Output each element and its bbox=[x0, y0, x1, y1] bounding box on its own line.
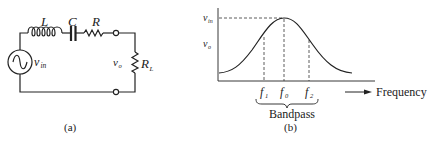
load-resistor-label: R L bbox=[140, 56, 154, 73]
svg-text:o: o bbox=[208, 44, 211, 50]
svg-text:R: R bbox=[140, 56, 149, 71]
svg-text:in: in bbox=[41, 61, 47, 70]
bandpass-response-chart: v in v o f 1 f 0 f 2 Bandpass Frequency … bbox=[203, 8, 427, 134]
svg-text:1: 1 bbox=[265, 92, 268, 99]
inductor-label: L bbox=[40, 14, 48, 29]
tick-label-f1: f 1 bbox=[260, 85, 268, 99]
capacitor-label: C bbox=[68, 14, 77, 29]
resistor-icon bbox=[84, 30, 103, 36]
wire-left-top bbox=[20, 33, 28, 50]
caption-b: (b) bbox=[284, 121, 297, 134]
output-terminal-top bbox=[113, 30, 118, 35]
svg-text:v: v bbox=[34, 55, 40, 69]
svg-text:in: in bbox=[208, 18, 213, 24]
chart-axes bbox=[218, 8, 375, 81]
tick-label-f0: f 0 bbox=[280, 85, 289, 99]
svg-text:v: v bbox=[113, 56, 118, 68]
bandpass-label: Bandpass bbox=[269, 107, 315, 121]
circuit-diagram: L C R v in v o R L (a) bbox=[8, 14, 154, 134]
output-voltage-label: v o bbox=[113, 56, 123, 69]
resistor-label: R bbox=[91, 14, 100, 29]
vin-axis-label: v in bbox=[203, 12, 213, 24]
source-label: v in bbox=[34, 55, 47, 70]
vo-axis-label: v o bbox=[203, 38, 211, 50]
svg-text:L: L bbox=[149, 65, 154, 73]
wire-bottom bbox=[20, 74, 113, 92]
wire-load-bottom bbox=[119, 73, 135, 92]
output-terminal-bottom bbox=[113, 89, 118, 94]
svg-text:0: 0 bbox=[285, 92, 289, 99]
ac-source-icon bbox=[8, 50, 32, 74]
response-curve bbox=[219, 18, 352, 73]
svg-text:o: o bbox=[119, 62, 123, 69]
load-resistor-icon bbox=[132, 52, 138, 73]
caption-a: (a) bbox=[64, 121, 77, 134]
frequency-arrow-icon bbox=[345, 90, 372, 95]
frequency-axis-label: Frequency bbox=[376, 85, 427, 99]
figure-canvas: L C R v in v o R L (a) v in bbox=[0, 0, 429, 147]
wire-terminal-load bbox=[119, 33, 135, 52]
svg-text:2: 2 bbox=[310, 92, 314, 99]
tick-label-f2: f 2 bbox=[305, 85, 314, 99]
